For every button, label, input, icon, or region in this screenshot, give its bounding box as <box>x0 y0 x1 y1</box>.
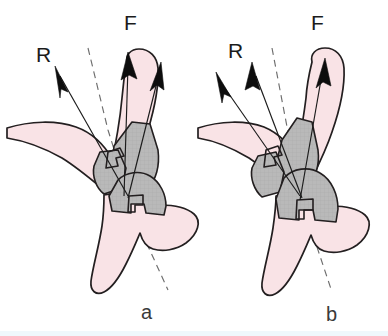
panel-b-force-label: F <box>311 11 324 34</box>
panel-b-resultant-label: R <box>228 39 243 62</box>
panel-a-force-label: F <box>124 11 137 34</box>
bottom-accent-strip <box>0 331 388 336</box>
figure-container: R F a <box>0 0 388 336</box>
panel-a-caption: a <box>141 301 153 323</box>
panel-a-resultant-label: R <box>36 43 51 66</box>
panel-b-caption: b <box>326 303 337 325</box>
anatomical-force-diagram: R F a <box>0 0 388 336</box>
